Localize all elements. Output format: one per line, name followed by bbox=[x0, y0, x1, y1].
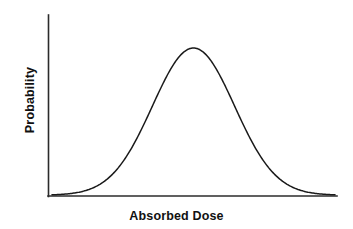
y-axis-label: Probability bbox=[24, 67, 37, 133]
gaussian-curve bbox=[52, 48, 335, 195]
x-axis-label: Absorbed Dose bbox=[0, 210, 353, 223]
y-axis-label-container: Probability bbox=[0, 0, 60, 229]
chart-figure: Probability Absorbed Dose bbox=[0, 0, 353, 229]
